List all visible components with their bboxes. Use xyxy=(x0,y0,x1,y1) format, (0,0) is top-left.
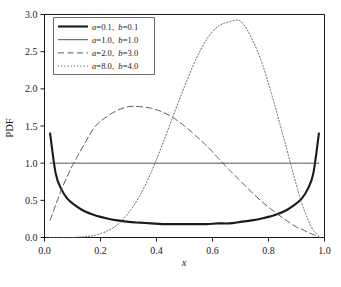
y-tick-label: 1.5 xyxy=(25,121,38,132)
beta-pdf-chart: 0.00.20.40.60.81.0 0.00.51.01.52.02.53.0… xyxy=(0,0,341,287)
x-tick-label: 0.6 xyxy=(206,245,219,256)
y-tick-label: 3.0 xyxy=(25,9,38,20)
y-tick-label: 0.5 xyxy=(25,195,38,206)
x-tick-label: 0.2 xyxy=(94,245,107,256)
x-axis-title: x xyxy=(181,257,187,268)
legend-label-2: a=2.0, b=3.0 xyxy=(92,48,138,58)
legend-param-b-value: =1.0 xyxy=(123,35,139,45)
legend-param-a-value: =2.0, xyxy=(96,48,118,58)
y-tick-label: 2.0 xyxy=(25,83,38,94)
legend-param-b-value: =3.0 xyxy=(123,48,139,58)
y-axis-title: PDF xyxy=(4,118,15,137)
legend-label-0: a=0.1, b=0.1 xyxy=(92,22,138,32)
x-tick-label: 1.0 xyxy=(318,245,331,256)
legend-param-b-value: =0.1 xyxy=(123,22,139,32)
legend-param-a-value: =0.1, xyxy=(96,22,118,32)
x-tick-label: 0.4 xyxy=(150,245,163,256)
x-tick-label: 0.8 xyxy=(262,245,275,256)
legend-param-a-value: =1.0, xyxy=(96,35,118,45)
legend: a=0.1, b=0.1a=1.0, b=1.0a=2.0, b=3.0a=8.… xyxy=(54,18,155,75)
legend-label-3: a=8.0, b=4.0 xyxy=(92,61,138,71)
chart-page: 0.00.20.40.60.81.0 0.00.51.01.52.02.53.0… xyxy=(0,0,341,287)
legend-param-a-value: =8.0, xyxy=(96,61,118,71)
legend-param-b-value: =4.0 xyxy=(123,61,139,71)
legend-label-1: a=1.0, b=1.0 xyxy=(92,35,138,45)
y-tick-label: 1.0 xyxy=(25,158,38,169)
y-tick-label: 2.5 xyxy=(25,46,38,57)
x-tick-label: 0.0 xyxy=(38,245,51,256)
y-tick-label: 0.0 xyxy=(25,232,38,243)
